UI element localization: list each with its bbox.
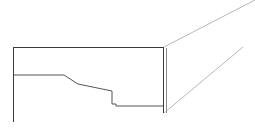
cad-drawing xyxy=(0,0,255,131)
drawing-canvas xyxy=(0,0,255,131)
